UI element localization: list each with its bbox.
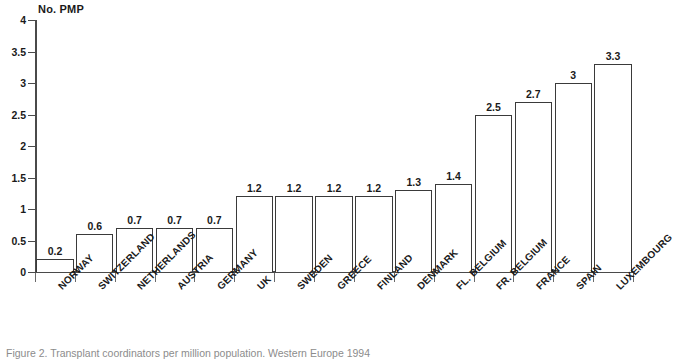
y-tick [28,146,35,147]
bar-value-label: 3.3 [594,50,631,62]
y-tick [28,272,35,273]
y-tick-label: 2.5 [0,109,26,121]
bar-value-label: 0.7 [156,214,193,226]
y-tick-label: 4 [0,14,26,26]
y-tick [28,115,35,116]
bar-value-label: 2.7 [515,88,552,100]
y-tick-label: 3 [0,77,26,89]
bar-value-label: 3 [555,69,592,81]
y-tick-label: 1.5 [0,172,26,184]
bar-value-label: 1.3 [395,176,432,188]
bar-value-label: 2.5 [475,101,512,113]
y-tick [28,83,35,84]
bar-value-label: 1.2 [275,182,312,194]
y-tick-label: 3.5 [0,46,26,58]
bar-value-label: 1.4 [435,170,472,182]
bar-value-label: 1.2 [236,182,273,194]
bar-value-label: 0.7 [116,214,153,226]
bar-value-label: 0.7 [196,214,233,226]
y-tick [28,52,35,53]
y-tick [28,209,35,210]
bar-value-label: 0.6 [76,220,113,232]
x-tick [274,273,275,282]
category-label: UK [255,274,273,292]
y-tick [28,241,35,242]
bar-value-label: 0.2 [36,245,73,257]
y-axis-title: No. PMP [38,3,84,15]
bar-value-label: 1.2 [355,182,392,194]
y-tick [28,178,35,179]
y-tick [28,20,35,21]
y-tick-label: 1 [0,203,26,215]
y-tick-label: 0 [0,266,26,278]
y-tick-label: 0.5 [0,235,26,247]
figure-caption: Figure 2. Transplant coordinators per mi… [6,347,370,359]
bar [594,64,631,272]
bar [555,83,592,272]
x-tick [35,273,36,282]
bar-value-label: 1.2 [315,182,352,194]
y-axis-line [35,20,37,273]
bar [275,196,312,272]
y-tick-label: 2 [0,140,26,152]
